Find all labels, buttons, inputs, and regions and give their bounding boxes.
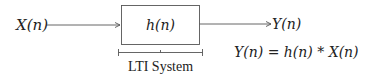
- bracket-label: LTI System: [128, 59, 193, 74]
- input-label: X(n): [15, 16, 48, 34]
- output-label: Y(n): [272, 16, 301, 32]
- lti-bracket: [119, 49, 203, 56]
- system-label: h(n): [146, 17, 175, 33]
- convolution-equation: Y(n) = h(n) * X(n): [234, 44, 359, 60]
- lti-system-diagram: X(n) h(n) Y(n) LTI System Y(n) = h(n) * …: [0, 0, 367, 77]
